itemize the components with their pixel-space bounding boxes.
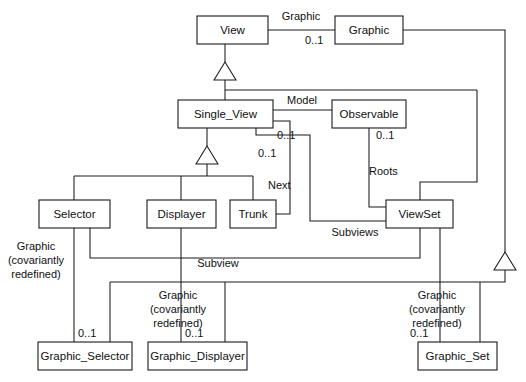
association-label-viewset-graphic-line1: Graphic (418, 289, 457, 301)
diagram-canvas: View Graphic Single_View Observable Sele… (0, 0, 526, 382)
label-layer: Graphic 0..1 Model 0..1 0..1 Next 0..1 R… (8, 10, 466, 339)
class-box-displayer[interactable]: Displayer (147, 200, 216, 228)
association-label-roots: Roots (369, 165, 398, 177)
class-name-selector: Selector (53, 208, 95, 220)
uml-class-diagram: View Graphic Single_View Observable Sele… (0, 0, 526, 382)
class-box-viewset[interactable]: ViewSet (386, 200, 453, 228)
class-box-observable[interactable]: Observable (332, 100, 406, 128)
class-box-single-view[interactable]: Single_View (178, 100, 273, 128)
generalization-graphic-triangle (494, 252, 516, 270)
association-label-next: Next (268, 179, 291, 191)
association-label-viewset-graphic-line2: (covariantly (409, 303, 466, 315)
multiplicity-roots: 0..1 (376, 129, 394, 141)
multiplicity-model: 0..1 (277, 129, 295, 141)
class-name-graphic-displayer: Graphic_Displayer (150, 350, 245, 362)
generalization-view-triangle (214, 62, 236, 80)
class-name-observable: Observable (340, 108, 399, 120)
association-label-model: Model (287, 94, 317, 106)
generalization-single-view-triangle (196, 146, 218, 164)
class-name-trunk: Trunk (239, 208, 268, 220)
association-label-selector-graphic-line2: (covariantly (8, 254, 65, 266)
association-label-displayer-graphic-line2: (covariantly (150, 303, 207, 315)
class-box-graphic-set[interactable]: Graphic_Set (418, 342, 497, 370)
association-label-graphic-top: Graphic (282, 10, 321, 22)
multiplicity-view-graphic: 0..1 (305, 34, 323, 46)
association-label-displayer-graphic-line1: Graphic (159, 289, 198, 301)
association-label-selector-graphic-line3: redefined) (11, 268, 61, 280)
class-box-graphic[interactable]: Graphic (335, 16, 403, 44)
multiplicity-viewset-graphic-set: 0..1 (410, 327, 428, 339)
class-name-viewset: ViewSet (399, 208, 442, 220)
class-box-trunk[interactable]: Trunk (230, 200, 276, 228)
generalization-graphic-stem (420, 270, 505, 282)
generalization-view-to-viewset (420, 90, 477, 200)
association-label-subviews: Subviews (331, 226, 379, 238)
multiplicity-displayer-graphic-displayer: 0..1 (185, 327, 203, 339)
class-box-selector[interactable]: Selector (39, 200, 110, 228)
class-name-graphic-selector: Graphic_Selector (41, 350, 130, 362)
class-box-graphic-displayer[interactable]: Graphic_Displayer (148, 342, 247, 370)
association-label-subview: Subview (197, 257, 239, 269)
class-name-view: View (220, 24, 245, 36)
association-label-selector-graphic-line1: Graphic (17, 240, 56, 252)
class-box-view[interactable]: View (197, 16, 268, 44)
multiplicity-next: 0..1 (258, 147, 276, 159)
class-name-displayer: Displayer (158, 208, 206, 220)
class-box-graphic-selector[interactable]: Graphic_Selector (38, 342, 132, 370)
class-name-graphic-set: Graphic_Set (426, 350, 491, 362)
class-name-graphic: Graphic (349, 24, 390, 36)
class-name-single-view: Single_View (194, 108, 258, 120)
multiplicity-selector-graphic-selector: 0..1 (78, 327, 96, 339)
